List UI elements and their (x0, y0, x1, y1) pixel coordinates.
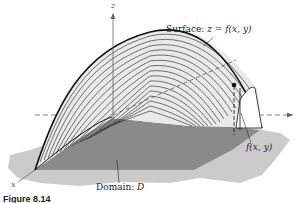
height-label: f(x, y) (246, 143, 272, 152)
surface-equation: z = f(x, y) (207, 24, 251, 34)
surface-point (232, 83, 237, 88)
domain-label-prefix: Domain: (96, 182, 137, 192)
surface-diagram (0, 0, 298, 203)
surface-label: Surface: z = f(x, y) (166, 25, 251, 34)
figure-caption: Figure 8.14 (3, 194, 51, 203)
domain-label: Domain: D (96, 183, 144, 192)
domain-symbol: D (137, 182, 144, 192)
z-axis-arrow (111, 13, 116, 19)
y-axis-arrow (287, 113, 293, 118)
surface-label-prefix: Surface: (166, 24, 207, 34)
z-axis-label: z (111, 2, 115, 10)
x-axis-label: x (11, 181, 16, 189)
